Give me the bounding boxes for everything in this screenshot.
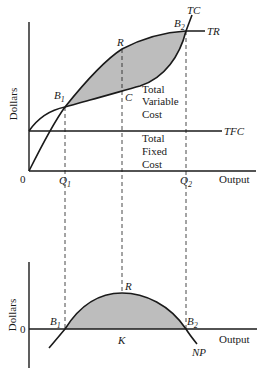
tfc-label: TFC xyxy=(224,125,245,137)
tc-label: TC xyxy=(187,4,201,16)
bottom-y-axis-label: Dollars xyxy=(6,299,18,331)
svg-text:Fixed: Fixed xyxy=(142,145,168,157)
total-variable-cost-label: Total Variable Cost xyxy=(142,83,179,120)
bottom-panel: Dollars 0 B1 B2 R K NP Output xyxy=(6,262,257,368)
profit-region-bottom xyxy=(65,293,186,329)
bottom-zero-label: 0 xyxy=(20,323,26,335)
svg-text:Cost: Cost xyxy=(142,108,162,120)
b2-label-top: B2 xyxy=(174,17,185,32)
svg-text:Variable: Variable xyxy=(142,95,179,107)
svg-text:Total: Total xyxy=(142,83,164,95)
top-origin-label: 0 xyxy=(20,173,26,185)
k-label: K xyxy=(117,334,126,346)
b2-label-bottom: B2 xyxy=(187,315,198,330)
break-even-diagram: Dollars 0 Q1 Q2 Output B1 B2 R C TC TR T… xyxy=(0,0,266,370)
tr-label: TR xyxy=(207,25,220,37)
top-y-axis-label: Dollars xyxy=(7,88,19,120)
b1-label-bottom: B1 xyxy=(50,315,61,330)
svg-text:Total: Total xyxy=(142,132,164,144)
r-label-bottom: R xyxy=(124,280,132,292)
c-label-top: C xyxy=(125,91,133,103)
top-x-axis-label: Output xyxy=(219,173,250,185)
svg-text:Cost: Cost xyxy=(142,158,162,170)
np-label: NP xyxy=(191,346,206,358)
bottom-x-axis-label: Output xyxy=(219,333,250,345)
r-label-top: R xyxy=(116,36,124,48)
total-fixed-cost-label: Total Fixed Cost xyxy=(142,132,168,170)
b1-label-top: B1 xyxy=(54,89,65,104)
